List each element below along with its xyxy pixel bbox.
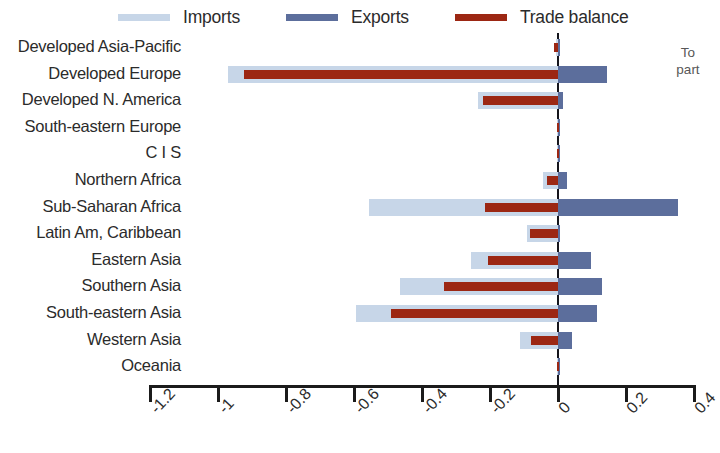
category-label: Oceania: [121, 357, 181, 374]
bar-trade-balance: [488, 256, 558, 265]
bar-trade-balance: [530, 229, 558, 238]
bar-trade-balance: [557, 362, 559, 371]
category-label: South-eastern Asia: [46, 304, 181, 321]
bar-exports: [558, 199, 678, 216]
category-label: Developed Asia-Pacific: [18, 38, 181, 55]
bar-trade-balance: [391, 309, 558, 318]
bar-exports: [558, 252, 591, 269]
category-axis-labels: Developed Asia-PacificDeveloped EuropeDe…: [0, 33, 186, 385]
bar-exports: [558, 225, 560, 242]
legend-item-exports: Exports: [286, 7, 409, 28]
category-label: Sub-Saharan Africa: [42, 198, 181, 215]
category-label: Southern Asia: [82, 277, 182, 294]
legend-swatch-icon: [455, 14, 507, 21]
legend-swatch-icon: [118, 14, 170, 21]
bar-trade-balance: [485, 203, 558, 212]
category-label: Developed Europe: [48, 65, 181, 82]
bar-trade-balance: [483, 96, 558, 105]
category-label: Developed N. America: [22, 91, 181, 108]
bar-exports: [558, 305, 597, 322]
category-label: South-eastern Europe: [25, 118, 181, 135]
bar-trade-balance: [547, 176, 558, 185]
bar-trade-balance: [557, 123, 559, 132]
bar-exports: [558, 39, 560, 56]
legend-label: Imports: [183, 7, 240, 28]
bar-trade-balance: [444, 282, 558, 291]
bar-exports: [558, 332, 572, 349]
legend-swatch-icon: [286, 14, 338, 21]
x-axis-tick-label: -1.2: [147, 385, 179, 417]
legend-item-trade-balance: Trade balance: [455, 7, 629, 28]
category-label: Eastern Asia: [91, 251, 181, 268]
chart-legend: ImportsExportsTrade balance: [0, 2, 710, 32]
bar-exports: [558, 278, 602, 295]
x-axis-tick-label: 0: [555, 398, 574, 417]
side-annotation-line2: part: [654, 62, 720, 79]
x-axis-tick-label: -0.4: [419, 385, 451, 417]
legend-item-imports: Imports: [118, 7, 240, 28]
legend-label: Trade balance: [520, 7, 629, 28]
category-label: C I S: [146, 144, 181, 161]
x-axis: -1.2-1-0.8-0.6-0.4-0.200.20.4: [186, 385, 710, 453]
bar-exports: [558, 66, 607, 83]
category-label: Latin Am, Caribbean: [36, 224, 181, 241]
category-label: Northern Africa: [75, 171, 181, 188]
bar-exports: [558, 92, 563, 109]
x-axis-tick-label: -0.2: [487, 385, 519, 417]
side-annotation-line1: To: [654, 45, 720, 62]
bar-trade-balance: [244, 70, 559, 79]
x-axis-tick-label: -0.6: [351, 385, 383, 417]
bar-trade-balance: [554, 43, 558, 52]
bar-trade-balance: [531, 336, 558, 345]
category-label: Western Asia: [87, 331, 181, 348]
side-annotation: To part: [654, 45, 720, 79]
bars-area: [186, 33, 710, 385]
bar-exports: [558, 172, 567, 189]
legend-label: Exports: [351, 7, 409, 28]
plot-area: Developed Asia-PacificDeveloped EuropeDe…: [0, 33, 710, 385]
x-axis-tick-label: -0.8: [283, 385, 315, 417]
bar-trade-balance: [557, 149, 559, 158]
